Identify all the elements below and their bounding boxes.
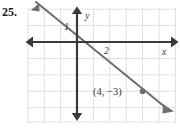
y-axis-arrow-down: [72, 113, 82, 121]
x-axis-label: x: [161, 46, 167, 57]
grid-lines: [28, 8, 176, 122]
x-axis-arrow-left: [26, 37, 34, 48]
x-axis: [26, 37, 179, 48]
line-arrow-lower-right: [163, 104, 175, 114]
y-axis-label: y: [84, 10, 90, 21]
y-tick-label-1: 1: [64, 21, 69, 32]
point-coordinate-label: (4, −3): [93, 86, 122, 98]
plotted-point-marker: [140, 88, 146, 94]
graph-figure: 25.: [0, 0, 180, 128]
x-tick-label-2: 2: [104, 45, 109, 56]
coordinate-plane-graph: y x 1 2 (4, −3): [0, 0, 180, 128]
y-axis: [72, 7, 82, 122]
y-axis-arrow-up: [72, 7, 82, 15]
x-axis-arrow-right: [171, 37, 179, 48]
